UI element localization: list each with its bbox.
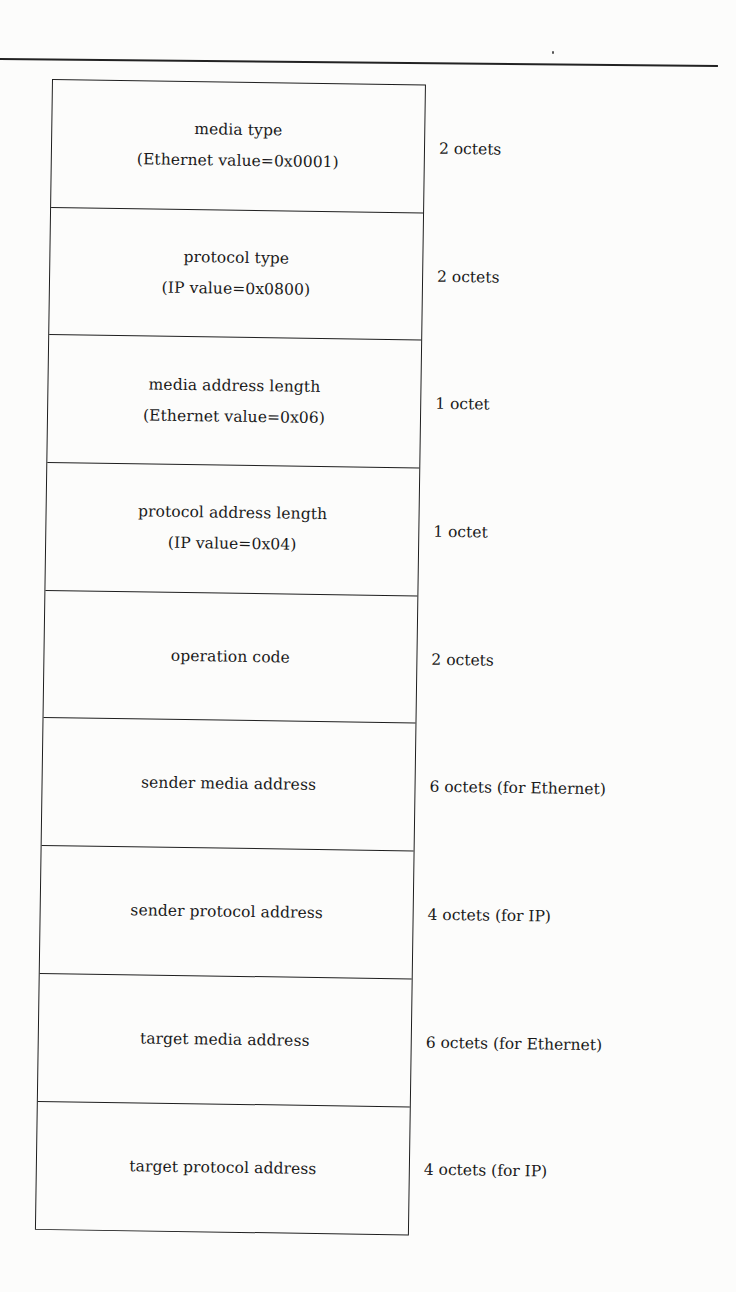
field-value: (IP value=0x0800) (161, 273, 310, 306)
field-row-sender-media-address: sender media address (42, 718, 416, 851)
field-value: (Ethernet value=0x06) (143, 400, 325, 434)
size-label-protocol-address-length: 1 octet (432, 468, 736, 600)
field-value: (IP value=0x04) (168, 528, 297, 561)
scanned-page: media type (Ethernet value=0x0001) proto… (0, 0, 736, 1292)
field-name: media type (194, 114, 282, 146)
field-row-target-protocol-address: target protocol address (36, 1101, 410, 1234)
size-label-target-media-address: 6 octets (for Ethernet) (425, 978, 736, 1110)
field-name: target media address (140, 1023, 310, 1057)
field-row-operation-code: operation code (44, 591, 418, 724)
field-name: protocol address length (138, 497, 328, 531)
size-label-protocol-type: 2 octets (436, 212, 736, 344)
size-label-operation-code: 2 octets (430, 595, 736, 727)
size-label-target-protocol-address: 4 octets (for IP) (423, 1106, 736, 1238)
size-label-sender-protocol-address: 4 octets (for IP) (427, 851, 736, 983)
field-row-media-address-length: media address length (Ethernet value=0x0… (47, 335, 421, 468)
field-name: sender protocol address (130, 895, 323, 929)
arp-packet-diagram: media type (Ethernet value=0x0001) proto… (35, 79, 736, 1240)
size-label-sender-media-address: 6 octets (for Ethernet) (429, 723, 736, 855)
header-rule-line (0, 58, 718, 67)
size-label-media-type: 2 octets (438, 85, 736, 217)
field-name: media address length (148, 369, 320, 403)
field-size-column: 2 octets 2 octets 1 octet 1 octet 2 octe… (423, 85, 736, 1239)
field-value: (Ethernet value=0x0001) (137, 145, 339, 179)
size-label-media-address-length: 1 octet (434, 340, 736, 472)
scan-speck (552, 51, 554, 54)
packet-field-box: media type (Ethernet value=0x0001) proto… (35, 79, 426, 1236)
field-name: protocol type (183, 242, 289, 275)
field-name: operation code (171, 640, 290, 673)
field-row-protocol-address-length: protocol address length (IP value=0x04) (45, 463, 419, 596)
field-row-target-media-address: target media address (38, 974, 412, 1107)
field-name: target protocol address (129, 1151, 317, 1185)
field-name: sender media address (141, 768, 316, 802)
field-row-media-type: media type (Ethernet value=0x0001) (51, 80, 425, 213)
field-row-protocol-type: protocol type (IP value=0x0800) (49, 208, 423, 341)
field-row-sender-protocol-address: sender protocol address (40, 846, 414, 979)
